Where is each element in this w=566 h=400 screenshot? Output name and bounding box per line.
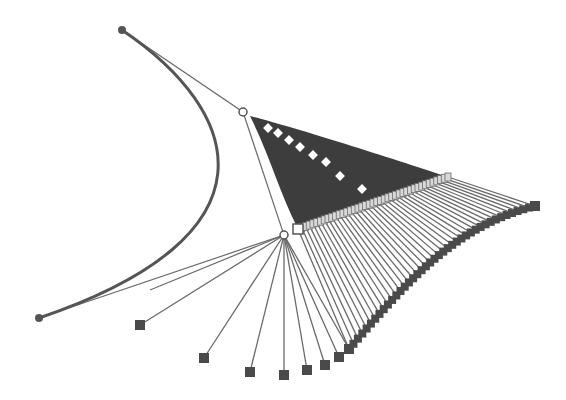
square-marker (135, 320, 145, 330)
bezier-curve (39, 30, 218, 318)
control-polygon-line (39, 30, 284, 318)
control-point-open-circle (239, 108, 247, 116)
sweep-ray (306, 226, 358, 338)
square-marker (199, 353, 209, 363)
square-marker (245, 367, 255, 377)
sweep-ray (250, 235, 284, 372)
control-polygon (39, 30, 284, 318)
main-curve (39, 30, 218, 318)
square-marker (334, 352, 344, 362)
control-point-dot (118, 26, 126, 34)
square-marker (279, 370, 289, 380)
end-square-marker (530, 201, 540, 211)
square-marker (302, 365, 312, 375)
sweep-ray (302, 228, 354, 344)
control-point-open-circle (280, 231, 288, 239)
sweep-ray (150, 235, 284, 290)
bezier-diagram (0, 0, 566, 400)
sweep-ray (284, 235, 339, 357)
upper-square-marker (445, 173, 451, 181)
square-marker (344, 344, 354, 354)
sweep-ray (140, 235, 284, 325)
sweep-ray (298, 229, 349, 349)
open-square-marker (293, 224, 303, 234)
control-point-dot (35, 314, 43, 322)
sweep-ray (204, 235, 284, 358)
square-marker (320, 360, 330, 370)
diagram-canvas (0, 0, 566, 400)
